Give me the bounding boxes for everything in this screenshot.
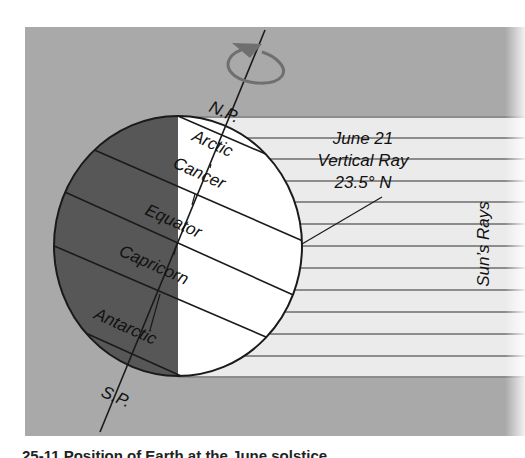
callout-title-label: Vertical Ray [317, 151, 410, 170]
callout-latitude-label: 23.5° N [334, 173, 393, 192]
callout-date-label: June 21 [332, 129, 394, 148]
solstice-diagram: N.P. S.P. Arctic Cancer Equator Capricor… [0, 0, 525, 458]
page-edge-fade [505, 0, 525, 458]
figure-caption: 25-11 Position of Earth at the June sols… [22, 447, 522, 458]
suns-rays-label: Sun’s Rays [474, 201, 493, 287]
